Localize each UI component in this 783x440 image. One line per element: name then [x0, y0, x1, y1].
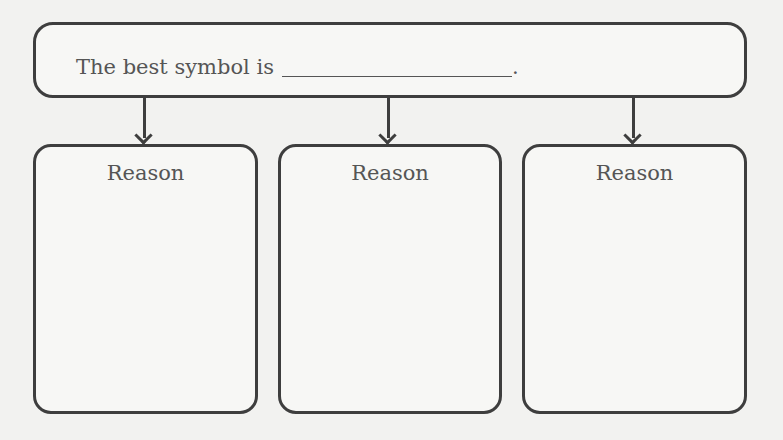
arrow-down-icon [143, 98, 146, 138]
reason-label: Reason [525, 161, 744, 185]
arrow-down-icon [632, 98, 635, 138]
statement-text: The best symbol is. [76, 55, 519, 79]
reason-box-2[interactable]: Reason [278, 144, 502, 414]
statement-period: . [512, 55, 519, 79]
reason-label: Reason [36, 161, 255, 185]
reason-box-3[interactable]: Reason [522, 144, 747, 414]
statement-box: The best symbol is. [33, 22, 747, 98]
answer-blank[interactable] [282, 76, 512, 77]
reason-box-1[interactable]: Reason [33, 144, 258, 414]
arrow-down-icon [387, 98, 390, 138]
statement-label: The best symbol is [76, 55, 274, 79]
reason-label: Reason [281, 161, 499, 185]
